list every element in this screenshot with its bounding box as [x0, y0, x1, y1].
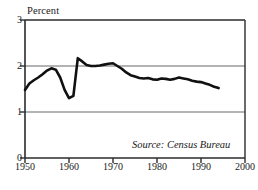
data-series-line — [25, 58, 219, 98]
y-tick-label-2: 2 — [6, 61, 22, 71]
x-tick-label-1990: 1990 — [184, 162, 218, 172]
source-note: Source: Census Bureau — [132, 139, 230, 151]
x-tick-label-1950: 1950 — [8, 162, 42, 172]
chart-container: Percent 3 2 1 0 1950 1960 1970 1980 1990… — [0, 0, 258, 190]
y-tick-label-1: 1 — [6, 107, 22, 117]
x-tick-label-1980: 1980 — [140, 162, 174, 172]
x-tick-label-1960: 1960 — [52, 162, 86, 172]
x-tick-label-2000: 2000 — [228, 162, 258, 172]
y-tick-label-3: 3 — [6, 15, 22, 25]
x-tick-label-1970: 1970 — [96, 162, 130, 172]
